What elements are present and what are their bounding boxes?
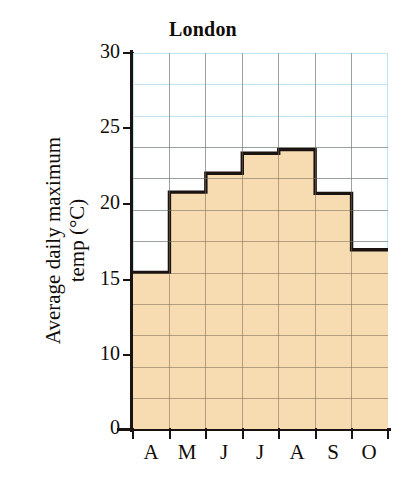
x-tick-3 [242, 428, 244, 439]
y-tick-label-25: 25 [84, 115, 120, 138]
y-axis-title-line1: Average daily maximum [41, 137, 65, 344]
chart-figure: London Average daily maximumtemp (°C) 30… [0, 0, 406, 489]
x-label-J-july: J [240, 440, 280, 465]
y-axis-title: Average daily maximumtemp (°C) [42, 46, 89, 436]
x-label-J-june: J [204, 440, 244, 465]
y-tick-label-0: 0 [84, 416, 120, 439]
x-label-A-august: A [277, 440, 317, 465]
plot-area [133, 53, 388, 429]
x-label-M-may: M [167, 440, 207, 465]
x-tick-1 [169, 428, 171, 439]
x-label-A-april: A [131, 440, 171, 465]
x-tick-6 [351, 428, 353, 439]
x-tick-0 [132, 428, 134, 439]
x-tick-5 [315, 428, 317, 439]
y-tick-label-15: 15 [84, 267, 120, 290]
chart-title: London [0, 18, 406, 41]
x-tick-7 [387, 428, 389, 439]
y-tick-label-10: 10 [84, 342, 120, 365]
x-label-S-september: S [313, 440, 353, 465]
x-tick-4 [278, 428, 280, 439]
x-label-O-october: O [349, 440, 389, 465]
step-area-series [133, 53, 388, 429]
y-tick-label-20: 20 [84, 191, 120, 214]
y-tick-label-30: 30 [84, 40, 120, 63]
x-tick-2 [205, 428, 207, 439]
